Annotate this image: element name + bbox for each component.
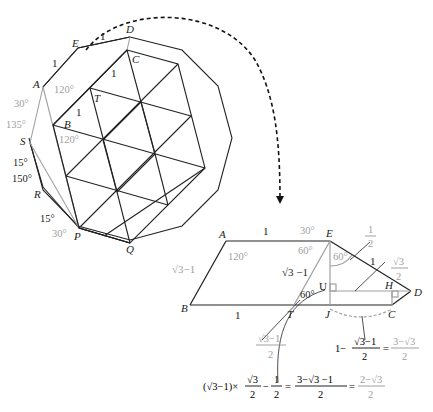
vertex-label-H: H (384, 279, 394, 291)
angle-A-outer: 120° (54, 84, 74, 95)
vertex-label-D2: D (413, 286, 422, 298)
svg-text:1: 1 (368, 224, 373, 235)
vertex-label-A2: A (218, 228, 226, 240)
vertex-label-Q: Q (126, 243, 134, 255)
edge-label-ED2: 1 (370, 255, 376, 267)
edge-label-BT: 1 (76, 106, 82, 118)
vertex-label-T2: T (287, 308, 294, 320)
brace-JC (330, 309, 392, 317)
trapezoid-figure (190, 241, 411, 382)
equation-JC: 1− √3−1 2 = 3−√3 2 (335, 336, 419, 362)
geometry-diagram: D E C A T B S R P Q 1 1 1 1 120° 120° 30… (0, 0, 433, 412)
vertex-label-C2: C (388, 308, 396, 320)
vertex-label-R: R (33, 188, 41, 200)
svg-text:2: 2 (368, 238, 373, 249)
svg-text:2: 2 (396, 271, 401, 282)
leader-UJ (278, 290, 325, 382)
vertex-label-A: A (32, 78, 40, 90)
triangle-grid (53, 50, 205, 243)
svg-text:3−√3: 3−√3 (393, 336, 415, 347)
rotation-arrow (86, 17, 280, 200)
edge-AS (30, 87, 43, 143)
angle-A2: 120° (228, 251, 248, 262)
edge-label-AE: 1 (52, 57, 58, 69)
svg-text:(√3−1)×: (√3−1)× (203, 381, 238, 393)
svg-text:1−: 1− (335, 343, 346, 354)
right-angle-H (392, 291, 398, 297)
angle-B-outer: 120° (59, 134, 79, 145)
svg-text:=: = (383, 343, 389, 354)
svg-text:√3−1: √3−1 (258, 333, 280, 344)
svg-text:2: 2 (274, 389, 279, 400)
svg-text:=: = (349, 381, 355, 392)
vertex-label-U: U (319, 280, 327, 292)
vertex-label-S: S (20, 135, 26, 147)
angle-E-right: 60° (333, 251, 348, 262)
angle-R-top: 150° (12, 173, 32, 184)
edge-AE (43, 48, 78, 87)
angle-A-left: 30° (14, 98, 29, 109)
angle-E-left: 60° (298, 245, 313, 256)
vertex-label-E2: E (325, 227, 333, 239)
edge-label-BT2: 1 (235, 309, 241, 321)
svg-text:2: 2 (362, 351, 367, 362)
arrow-head-icon (276, 196, 284, 204)
edge-label-TC: 1 (111, 67, 117, 79)
vertex-label-P: P (73, 230, 81, 242)
leader-half (350, 242, 370, 260)
edge-label-ED: 1 (100, 30, 106, 42)
edge-AB (190, 241, 226, 305)
svg-text:1: 1 (274, 374, 279, 385)
vertex-label-D: D (125, 23, 134, 35)
angle-E-top: 30° (300, 225, 315, 236)
svg-text:2: 2 (268, 349, 273, 360)
svg-text:2−√3: 2−√3 (360, 374, 382, 385)
svg-text:√3: √3 (393, 256, 404, 267)
edge-label-TE: √3 −1 (282, 266, 308, 278)
vertex-label-J: J (325, 308, 331, 320)
line-DC (127, 37, 130, 50)
svg-text:2: 2 (368, 389, 373, 400)
edge-CD (392, 291, 411, 305)
angle-T2: 60° (300, 289, 315, 300)
vertex-label-B: B (64, 118, 71, 130)
edge-label-AB: √3−1 (172, 263, 195, 275)
fraction-root3-over-2: √3 2 (391, 256, 408, 282)
svg-text:2: 2 (250, 389, 255, 400)
svg-text:2: 2 (318, 389, 323, 400)
svg-text:√3: √3 (247, 374, 258, 385)
vertex-label-B2: B (181, 302, 188, 314)
svg-text:2: 2 (402, 351, 407, 362)
vertex-label-E: E (71, 37, 79, 49)
vertex-label-T: T (94, 92, 101, 104)
angle-P-upper: 15° (40, 213, 55, 224)
equation-UJ: (√3−1)× √3 2 − 1 2 = 3−√3 −1 2 = 2−√3 2 (203, 374, 385, 400)
angle-S-bottom: 15° (13, 157, 28, 168)
svg-text:−: − (263, 381, 269, 392)
angle-P-lower: 30° (52, 228, 67, 239)
angle-S-top: 135° (6, 119, 26, 130)
right-angle-U (330, 284, 336, 291)
svg-text:=: = (285, 381, 291, 392)
svg-text:3−√3 −1: 3−√3 −1 (297, 374, 333, 385)
vertex-label-C: C (132, 53, 140, 65)
edge-label-AE2: 1 (263, 225, 269, 237)
svg-text:√3−1: √3−1 (354, 336, 376, 347)
